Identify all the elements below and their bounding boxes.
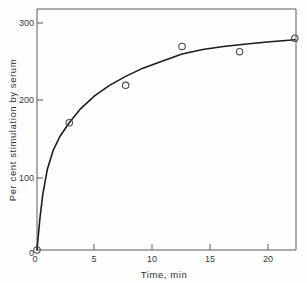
- y-tick-label-200: 200: [19, 95, 34, 105]
- x-axis-title: Time, min: [141, 269, 188, 280]
- data-point-marker: [179, 43, 185, 49]
- data-point-group: [34, 35, 298, 253]
- x-tick-label-15: 15: [205, 254, 215, 264]
- y-tick-label-300: 300: [19, 18, 34, 28]
- chart-figure: 300 200 100 0 0 5 10 15 20 Time, min Per…: [0, 0, 307, 283]
- x-tick-label-20: 20: [263, 254, 273, 264]
- y-tick-label-100: 100: [19, 173, 34, 183]
- data-point-marker: [236, 48, 242, 54]
- data-point-marker: [122, 82, 128, 88]
- y-axis-title: Per cent stimulation by serum: [7, 59, 18, 202]
- x-tick-label-5: 5: [91, 254, 96, 264]
- plot-frame: [37, 9, 296, 250]
- plot-area: 300 200 100 0 0 5 10 15 20 Time, min Per…: [0, 0, 307, 283]
- x-tick-label-0: 0: [32, 254, 37, 264]
- x-tick-label-10: 10: [147, 254, 157, 264]
- fitted-curve: [37, 40, 295, 250]
